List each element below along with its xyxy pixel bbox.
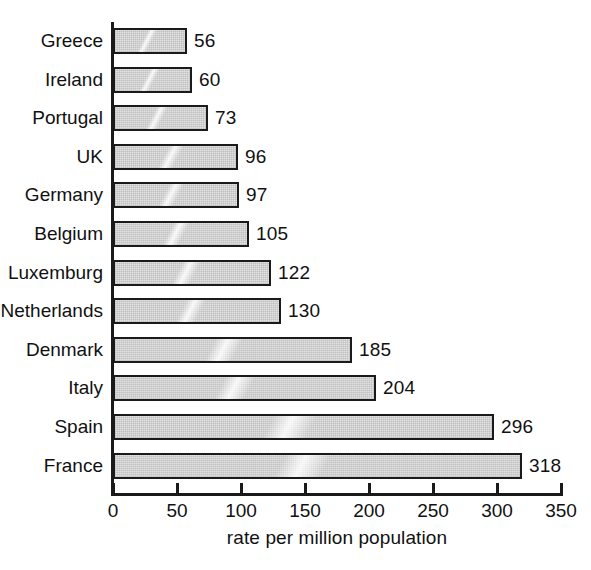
bar-row: 185: [113, 337, 412, 363]
bar-value-label: 56: [194, 30, 216, 52]
bar-value-label: 60: [199, 69, 221, 91]
category-label-greece: Greece: [0, 28, 103, 54]
category-label-germany: Germany: [0, 182, 103, 208]
bar-italy: [113, 375, 376, 401]
bar-spain: [113, 414, 494, 440]
plot-area: 5660739697105122130185204296318 GreeceIr…: [0, 0, 591, 570]
bar-value-label: 130: [288, 300, 320, 322]
bar-row: 73: [113, 105, 268, 131]
bar-chart: 5660739697105122130185204296318 GreeceIr…: [0, 0, 591, 570]
category-label-portugal: Portugal: [0, 105, 103, 131]
bar-row: 56: [113, 28, 247, 54]
category-label-spain: Spain: [0, 414, 103, 440]
bar-row: 97: [113, 182, 299, 208]
category-label-italy: Italy: [0, 375, 103, 401]
x-axis-title: rate per million population: [111, 527, 563, 549]
x-tick: [112, 483, 115, 493]
bar-greece: [113, 28, 187, 54]
bar-row: 318: [113, 453, 582, 479]
x-tick: [240, 483, 243, 493]
bar-value-label: 122: [278, 262, 310, 284]
bar-row: 130: [113, 298, 341, 324]
x-tick: [304, 483, 307, 493]
bar-value-label: 73: [215, 107, 237, 129]
bar-value-label: 318: [529, 455, 561, 477]
x-tick-label: 100: [211, 500, 271, 522]
category-label-belgium: Belgium: [0, 221, 103, 247]
bar-uk: [113, 144, 238, 170]
x-tick-label: 200: [339, 500, 399, 522]
bar-row: 204: [113, 375, 436, 401]
bar-portugal: [113, 105, 208, 131]
bar-value-label: 96: [245, 146, 267, 168]
x-tick: [496, 483, 499, 493]
category-label-luxemburg: Luxemburg: [0, 260, 103, 286]
bar-denmark: [113, 337, 352, 363]
bar-value-label: 105: [256, 223, 288, 245]
x-tick-label: 0: [83, 500, 143, 522]
bar-luxemburg: [113, 260, 271, 286]
x-tick: [560, 483, 563, 493]
category-label-netherlands: Netherlands: [0, 298, 103, 324]
bar-value-label: 204: [383, 377, 415, 399]
bar-value-label: 296: [501, 416, 533, 438]
x-tick-label: 150: [275, 500, 335, 522]
x-tick: [368, 483, 371, 493]
bar-row: 60: [113, 67, 252, 93]
x-tick-label: 350: [531, 500, 591, 522]
category-label-ireland: Ireland: [0, 67, 103, 93]
x-tick-label: 50: [147, 500, 207, 522]
bar-value-label: 97: [246, 184, 268, 206]
bar-value-label: 185: [359, 339, 391, 361]
category-label-france: France: [0, 453, 103, 479]
category-label-denmark: Denmark: [0, 337, 103, 363]
category-label-uk: UK: [0, 144, 103, 170]
x-tick-label: 250: [403, 500, 463, 522]
bar-belgium: [113, 221, 249, 247]
bar-row: 105: [113, 221, 309, 247]
x-axis-line: [111, 493, 563, 496]
bar-germany: [113, 182, 239, 208]
bar-row: 122: [113, 260, 331, 286]
bar-row: 96: [113, 144, 298, 170]
bar-netherlands: [113, 298, 281, 324]
x-tick: [176, 483, 179, 493]
x-tick: [432, 483, 435, 493]
x-tick-label: 300: [467, 500, 527, 522]
bar-france: [113, 453, 522, 479]
bar-ireland: [113, 67, 192, 93]
bar-row: 296: [113, 414, 554, 440]
